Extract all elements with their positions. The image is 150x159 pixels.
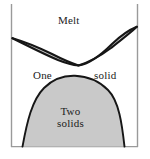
region-label-two-solids: Two solids [57,105,84,129]
region-label-two-solids-line2: solids [57,117,84,129]
region-label-two-solids-line1: Two [57,105,84,117]
region-label-melt: Melt [58,15,80,26]
region-label-one: One [33,70,52,81]
phase-diagram-figure: Melt One solid Two solids [0,0,150,159]
lens-two-phase-region [13,27,137,66]
region-label-solid: solid [94,70,116,81]
